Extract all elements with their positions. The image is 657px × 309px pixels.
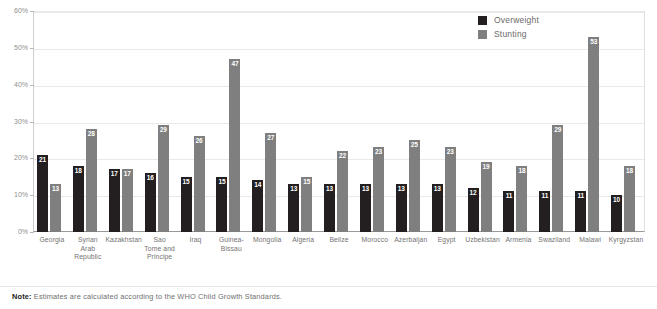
bar-stunting: 28 xyxy=(86,129,97,232)
bar-group: 1526 xyxy=(178,11,214,232)
overweight-stunting-bar-chart: 0%10%20%30%40%50%60% 2113182817171629152… xyxy=(0,0,657,309)
bar-group: 1322 xyxy=(321,11,357,232)
bar-group: 2113 xyxy=(34,11,70,232)
bar-group: 1323 xyxy=(429,11,465,232)
bar-overweight: 11 xyxy=(503,191,514,232)
bar-value-label: 29 xyxy=(552,126,563,134)
bar-value-label: 16 xyxy=(145,174,156,182)
bar-value-label: 23 xyxy=(445,148,456,156)
bar-value-label: 15 xyxy=(216,178,227,186)
bars-layer: 2113182817171629152615471427131513221323… xyxy=(34,11,644,232)
bar-value-label: 11 xyxy=(539,192,550,200)
bar-overweight: 21 xyxy=(37,155,48,232)
bar-overweight: 13 xyxy=(360,184,371,232)
bar-stunting: 23 xyxy=(445,147,456,232)
footnote-divider xyxy=(0,286,657,287)
bar-overweight: 12 xyxy=(468,188,479,232)
y-axis-tick-label: 50% xyxy=(0,44,28,51)
y-axis-tick-label: 20% xyxy=(0,154,28,161)
legend-label: Stunting xyxy=(494,29,527,39)
bar-value-label: 18 xyxy=(516,167,527,175)
bar-group: 1547 xyxy=(213,11,249,232)
legend-swatch-icon xyxy=(478,30,487,39)
bar-overweight: 13 xyxy=(432,184,443,232)
bar-group: 1717 xyxy=(106,11,142,232)
bar-overweight: 17 xyxy=(109,169,120,232)
x-axis-label-line: Principe xyxy=(136,253,184,262)
bar-stunting: 19 xyxy=(481,162,492,232)
bar-value-label: 29 xyxy=(158,126,169,134)
chart-note: Note: Estimates are calculated according… xyxy=(12,292,282,301)
chart-note-prefix: Note: xyxy=(12,292,32,301)
bar-value-label: 13 xyxy=(396,185,407,193)
bar-group: 1315 xyxy=(285,11,321,232)
y-axis-tick-label: 0% xyxy=(0,228,28,235)
bar-overweight: 14 xyxy=(252,180,263,232)
bar-stunting: 29 xyxy=(552,125,563,232)
bar-overweight: 11 xyxy=(575,191,586,232)
bar-stunting: 53 xyxy=(588,37,599,232)
bar-stunting: 26 xyxy=(194,136,205,232)
bar-value-label: 14 xyxy=(252,181,263,189)
bar-value-label: 13 xyxy=(50,185,61,193)
chart-note-text: Estimates are calculated according to th… xyxy=(34,292,282,301)
bar-group: 1323 xyxy=(357,11,393,232)
bar-value-label: 13 xyxy=(360,185,371,193)
bar-group: 1828 xyxy=(70,11,106,232)
x-axis-label-line: Tome and xyxy=(136,245,184,254)
bar-stunting: 29 xyxy=(158,125,169,232)
bar-value-label: 18 xyxy=(624,167,635,175)
bar-stunting: 23 xyxy=(373,147,384,232)
bar-value-label: 15 xyxy=(301,178,312,186)
x-axis-label-line: Bissau xyxy=(207,245,255,254)
bar-stunting: 47 xyxy=(229,59,240,232)
bar-value-label: 22 xyxy=(337,152,348,160)
bar-stunting: 18 xyxy=(624,166,635,232)
bar-group: 1129 xyxy=(536,11,572,232)
bar-overweight: 13 xyxy=(324,184,335,232)
bar-value-label: 15 xyxy=(181,178,192,186)
bar-overweight: 16 xyxy=(145,173,156,232)
bar-value-label: 10 xyxy=(611,196,622,204)
bar-value-label: 26 xyxy=(194,137,205,145)
x-axis-label-line: Republic xyxy=(64,253,112,262)
x-axis-labels: GeorgiaSyrianArabRepublicKazakhstanSaoTo… xyxy=(34,236,644,280)
bar-overweight: 18 xyxy=(73,166,84,232)
y-axis-tick-mark xyxy=(30,232,34,233)
bar-value-label: 13 xyxy=(288,185,299,193)
y-axis-tick-label: 10% xyxy=(0,191,28,198)
bar-group: 1118 xyxy=(500,11,536,232)
bar-value-label: 17 xyxy=(122,170,133,178)
chart-legend: OverweightStunting xyxy=(478,13,608,41)
bar-value-label: 23 xyxy=(373,148,384,156)
bar-stunting: 22 xyxy=(337,151,348,232)
bar-overweight: 15 xyxy=(216,177,227,232)
bar-group: 1629 xyxy=(142,11,178,232)
bar-group: 1219 xyxy=(465,11,501,232)
bar-value-label: 13 xyxy=(324,185,335,193)
bar-overweight: 13 xyxy=(288,184,299,232)
bar-value-label: 21 xyxy=(37,156,48,164)
bar-group: 1325 xyxy=(393,11,429,232)
legend-item-overweight[interactable]: Overweight xyxy=(478,13,608,27)
bar-value-label: 18 xyxy=(73,167,84,175)
y-axis-tick-label: 60% xyxy=(0,7,28,14)
bar-value-label: 17 xyxy=(109,170,120,178)
bar-value-label: 27 xyxy=(265,134,276,142)
bar-overweight: 13 xyxy=(396,184,407,232)
bar-stunting: 25 xyxy=(409,140,420,232)
bar-stunting: 27 xyxy=(265,133,276,232)
bar-value-label: 11 xyxy=(503,192,514,200)
bar-value-label: 28 xyxy=(86,130,97,138)
bar-value-label: 12 xyxy=(468,189,479,197)
bar-value-label: 47 xyxy=(229,60,240,68)
bar-value-label: 13 xyxy=(432,185,443,193)
legend-swatch-icon xyxy=(478,16,487,25)
legend-label: Overweight xyxy=(494,15,539,25)
legend-item-stunting[interactable]: Stunting xyxy=(478,27,608,41)
bar-group: 1018 xyxy=(608,11,644,232)
x-axis-label-line: Kyrgyzstan xyxy=(602,236,650,245)
bar-stunting: 13 xyxy=(50,184,61,232)
bar-overweight: 10 xyxy=(611,195,622,232)
y-axis-tick-label: 40% xyxy=(0,81,28,88)
